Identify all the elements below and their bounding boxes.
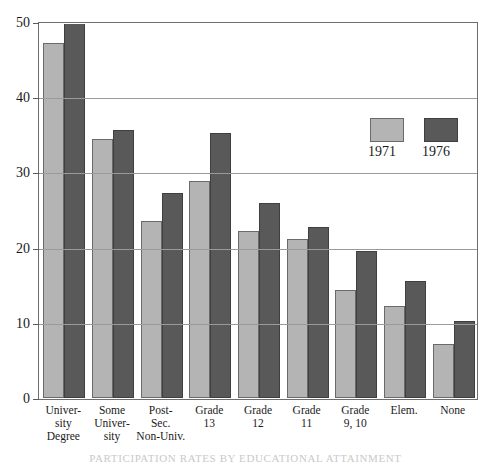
bar-1976-6 [308, 227, 329, 398]
bar-group [433, 24, 475, 398]
bar-1971-7 [335, 290, 356, 398]
x-axis-label-line: Some [88, 404, 137, 417]
y-axis-label: 10 [16, 317, 30, 331]
bar-1976-2 [113, 130, 134, 398]
y-axis-tick [33, 23, 39, 24]
y-axis-label: 20 [16, 242, 30, 256]
x-axis-label-line: Grade [234, 404, 283, 417]
x-axis-label-line: Degree [39, 430, 88, 443]
gridline [39, 249, 477, 250]
bar-1971-2 [92, 139, 113, 398]
x-axis-labels: Univer-sityDegreeSomeUniver-sityPost-Sec… [38, 404, 478, 452]
legend-label-1971: 1971 [368, 145, 396, 159]
bar-1971-9 [433, 344, 454, 398]
y-axis-tick [33, 324, 39, 325]
bar-1971-6 [287, 239, 308, 398]
y-axis-tick [33, 249, 39, 250]
x-axis-label: None [428, 404, 477, 417]
x-axis-label-line: Grade [331, 404, 380, 417]
y-axis-tick [33, 399, 39, 400]
gridline [39, 98, 477, 99]
x-axis-label: SomeUniver-sity [88, 404, 137, 443]
bar-1976-5 [259, 203, 280, 398]
x-axis-label-line: 9, 10 [331, 417, 380, 430]
caption-text: PARTICIPATION RATES BY EDUCATIONAL ATTAI… [0, 455, 491, 463]
legend-swatch-1976 [424, 118, 458, 142]
x-axis-label-line: Non-Univ. [136, 430, 185, 443]
gridline [39, 324, 477, 325]
x-axis-label: Grade11 [282, 404, 331, 430]
x-axis-label-line: sity [39, 417, 88, 430]
x-axis-label-line: 12 [234, 417, 283, 430]
bar-group [43, 24, 85, 398]
y-axis-label: 40 [16, 91, 30, 105]
x-axis-label: Elem. [380, 404, 429, 417]
bar-group [238, 24, 280, 398]
bar-1971-1 [43, 43, 64, 398]
gridline [39, 173, 477, 174]
x-axis-label: Grade9, 10 [331, 404, 380, 430]
bar-1976-4 [210, 133, 231, 398]
x-axis-label-line: Grade [185, 404, 234, 417]
y-axis-tick [33, 98, 39, 99]
x-axis-label-line: Univer- [88, 417, 137, 430]
bar-1976-9 [454, 321, 475, 398]
x-axis-label: Grade12 [234, 404, 283, 430]
bars-layer [40, 24, 476, 398]
bar-1976-8 [405, 281, 426, 398]
x-axis-label-line: None [428, 404, 477, 417]
x-axis-label-line: Grade [282, 404, 331, 417]
x-axis-label: Grade13 [185, 404, 234, 430]
x-axis-label: Post-Sec.Non-Univ. [136, 404, 185, 443]
y-axis-label: 30 [16, 166, 30, 180]
bar-1971-8 [384, 306, 405, 398]
bar-1976-1 [64, 24, 85, 398]
x-axis-label-line: 11 [282, 417, 331, 430]
bar-1971-3 [141, 221, 162, 398]
x-axis-label: Univer-sityDegree [39, 404, 88, 443]
legend-swatches [368, 118, 474, 144]
bar-group [335, 24, 377, 398]
chart-legend: 1971 1976 [368, 118, 474, 166]
bar-1971-5 [238, 231, 259, 398]
bar-1976-3 [162, 193, 183, 398]
x-axis-label-line: Post- [136, 404, 185, 417]
x-axis-label-line: sity [88, 430, 137, 443]
x-axis-label-line: Univer- [39, 404, 88, 417]
x-axis-label-line: 13 [185, 417, 234, 430]
bar-1971-4 [189, 181, 210, 398]
legend-label-1976: 1976 [422, 145, 450, 159]
plot-area: 01020304050 [38, 22, 478, 400]
bar-group [141, 24, 183, 398]
y-axis-label: 0 [23, 392, 30, 406]
x-axis-label-line: Sec. [136, 417, 185, 430]
cropped-caption: PARTICIPATION RATES BY EDUCATIONAL ATTAI… [0, 455, 491, 463]
bar-group [189, 24, 231, 398]
x-axis-label-line: Elem. [380, 404, 429, 417]
y-axis-tick [33, 173, 39, 174]
bar-group [287, 24, 329, 398]
legend-swatch-1971 [370, 118, 404, 142]
bar-chart: 01020304050 Univer-sityDegreeSomeUniver-… [0, 0, 491, 463]
y-axis-label: 50 [16, 16, 30, 30]
bar-group [384, 24, 426, 398]
bar-group [92, 24, 134, 398]
